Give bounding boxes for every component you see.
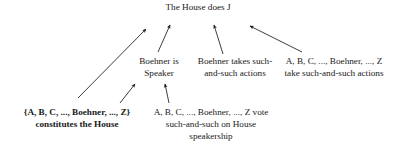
arrow-vote-to-speaker — [165, 84, 169, 103]
node-boehner-is-speaker: Boehner is Speaker — [128, 56, 190, 80]
node-boehner-takes-actions: Boehner takes such- and-such actions — [188, 56, 282, 80]
arrow-speaker-to-top — [158, 25, 170, 52]
arrow-collective-actions-to-top — [250, 26, 302, 52]
node-members-constitute-house: {A, B, C, ..., Boehner, ..., Z} constitu… — [4, 107, 150, 131]
arrow-constitutes-to-speaker — [120, 84, 135, 103]
grounding-diagram: The House does J Boehner is Speaker Boeh… — [0, 0, 394, 153]
node-house-does-j: The House does J — [128, 2, 268, 14]
node-members-take-actions: A, B, C, ..., Boehner, ..., Z take such-… — [276, 56, 392, 80]
arrow-actions-to-top — [214, 25, 223, 54]
node-members-vote-speakership: A, B, C, ..., Boehner, ..., Z vote such-… — [144, 107, 278, 142]
